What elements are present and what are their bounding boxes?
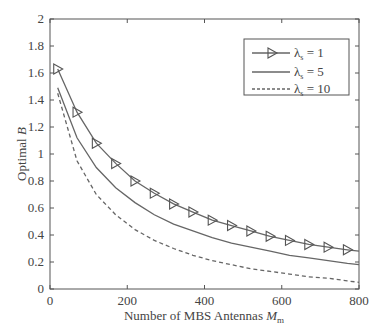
legend-label-3: λs = 10 xyxy=(294,81,330,98)
y-tick-label: 0.6 xyxy=(28,200,45,215)
y-tick-label: 0 xyxy=(38,281,45,296)
optimal-b-chart: 020040060080000.20.40.60.811.21.41.61.82… xyxy=(0,0,385,336)
y-tick-label: 1.6 xyxy=(28,65,45,80)
x-tick-label: 400 xyxy=(195,293,215,308)
y-tick-label: 0.2 xyxy=(28,254,44,269)
x-tick-label: 600 xyxy=(272,293,292,308)
y-tick-label: 1.8 xyxy=(28,38,44,53)
x-tick-label: 800 xyxy=(349,293,369,308)
y-tick-label: 1.4 xyxy=(28,92,45,107)
y-tick-label: 2 xyxy=(38,11,45,26)
y-axis-label: Optimal B xyxy=(14,127,29,181)
series-line-3 xyxy=(58,93,359,282)
x-tick-label: 0 xyxy=(47,293,54,308)
legend-label-1: λs = 1 xyxy=(294,45,324,62)
x-tick-label: 200 xyxy=(118,293,138,308)
y-tick-label: 1 xyxy=(38,146,45,161)
data-series xyxy=(54,64,359,282)
y-tick-label: 1.2 xyxy=(28,119,44,134)
legend-label-2: λs = 5 xyxy=(294,64,324,81)
legend: λs = 1λs = 5λs = 10 xyxy=(244,39,349,98)
y-tick-label: 0.4 xyxy=(28,227,45,242)
series-line-2 xyxy=(58,88,359,265)
x-axis-label: Number of MBS Antennas Mm xyxy=(124,308,284,325)
y-tick-label: 0.8 xyxy=(28,173,44,188)
